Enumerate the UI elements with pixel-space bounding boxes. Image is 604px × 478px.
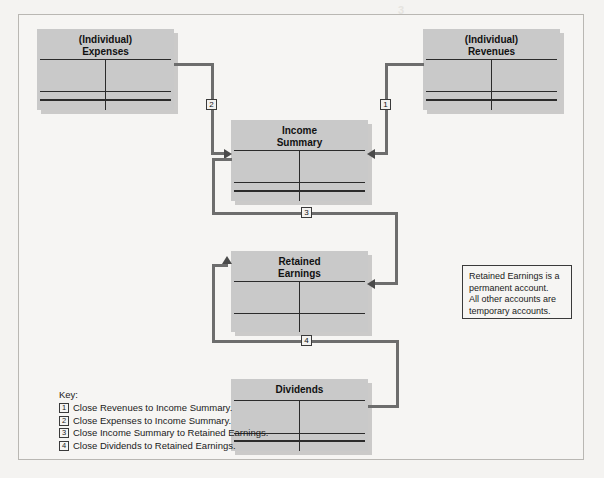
account-title-income-summary: Income Summary: [231, 125, 368, 148]
connector-4-segment-horizontal-from-dividends: [368, 405, 399, 408]
account-title-line2: Expenses: [37, 46, 174, 58]
key-label-1: Close Revenues to Income Summary.: [73, 402, 232, 414]
key-label-4: Close Dividends to Retained Earnings.: [73, 440, 236, 452]
note-line-1: Retained Earnings is a: [469, 271, 565, 283]
account-title-line1: (Individual): [37, 34, 174, 46]
account-box-income-summary: Income Summary: [231, 120, 368, 201]
note-box-retained-earnings: Retained Earnings is a permanent account…: [462, 265, 572, 319]
connector-3-segment-horizontal-into-re: [375, 282, 398, 285]
account-title-individual-revenues: (Individual) Revenues: [423, 34, 560, 57]
marker-3: 3: [301, 207, 312, 218]
diagram-frame: (Individual) Expenses (Individual) Reven…: [18, 14, 584, 460]
key-legend: Key: 1 Close Revenues to Income Summary.…: [59, 389, 268, 452]
key-item-1: 1 Close Revenues to Income Summary.: [59, 402, 268, 415]
connector-4-arrowhead: [222, 256, 232, 264]
connector-4-segment-vertical-left: [212, 264, 215, 343]
note-line-4: temporary accounts.: [469, 306, 565, 318]
key-marker-1: 1: [59, 403, 69, 413]
diagram-page: 3 (Individual) Expenses (Individual) Rev…: [0, 0, 604, 478]
connector-2-arrowhead: [224, 149, 232, 159]
key-marker-2: 2: [59, 416, 69, 426]
connector-3-segment-vertical-right: [395, 212, 398, 285]
key-label-2: Close Expenses to Income Summary.: [73, 415, 231, 427]
account-title-retained-earnings: Retained Earnings: [231, 256, 368, 279]
account-title-line1: Retained: [231, 256, 368, 268]
connector-4-segment-horizontal-into-re: [212, 264, 228, 267]
account-center-divider: [105, 59, 106, 110]
key-marker-3: 3: [59, 428, 69, 438]
account-title-line2: Revenues: [423, 46, 560, 58]
account-title-line1: (Individual): [423, 34, 560, 46]
connector-1-arrowhead: [367, 149, 375, 159]
connector-2-segment-horizontal-top: [174, 63, 214, 66]
note-line-2: permanent account.: [469, 283, 565, 295]
key-title: Key:: [59, 389, 268, 400]
connector-1-segment-horizontal-bottom: [375, 152, 388, 155]
note-line-3: All other accounts are: [469, 294, 565, 306]
key-item-3: 3 Close Income Summary to Retained Earni…: [59, 427, 268, 440]
account-title-line2: Earnings: [231, 268, 368, 280]
account-center-divider: [299, 281, 300, 332]
marker-2: 2: [206, 99, 217, 110]
marker-1: 1: [380, 99, 391, 110]
account-box-retained-earnings: Retained Earnings: [231, 251, 368, 332]
marker-4: 4: [301, 335, 312, 346]
key-item-4: 4 Close Dividends to Retained Earnings.: [59, 440, 268, 453]
connector-3-arrowhead: [367, 279, 375, 289]
account-title-individual-expenses: (Individual) Expenses: [37, 34, 174, 57]
account-center-divider: [299, 150, 300, 201]
connector-3-segment-horizontal-into-income: [212, 158, 232, 161]
account-center-divider: [299, 400, 300, 451]
connector-3-segment-vertical-left: [212, 158, 215, 215]
key-label-3: Close Income Summary to Retained Earning…: [73, 427, 268, 439]
connector-4-segment-vertical-right: [396, 340, 399, 408]
connector-1-segment-horizontal-top: [385, 63, 424, 66]
account-center-divider: [491, 59, 492, 110]
account-title-line2: Summary: [231, 137, 368, 149]
key-marker-4: 4: [59, 441, 69, 451]
account-box-individual-expenses: (Individual) Expenses: [37, 29, 174, 110]
key-item-2: 2 Close Expenses to Income Summary.: [59, 415, 268, 428]
account-title-line1: Income: [231, 125, 368, 137]
account-box-individual-revenues: (Individual) Revenues: [423, 29, 560, 110]
